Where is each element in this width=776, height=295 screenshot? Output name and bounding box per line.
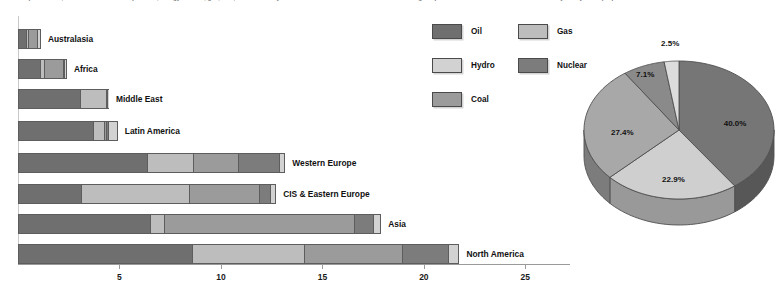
bar-segment-hydro	[65, 60, 66, 78]
legend-swatch	[518, 58, 548, 73]
cropped-text-right: although important in some countries it …	[400, 0, 683, 1]
bar-category-label: Australasia	[48, 34, 93, 44]
x-axis-tick-label: 10	[216, 272, 225, 282]
bar-segment-gas	[82, 185, 190, 203]
x-axis-tick	[221, 264, 222, 269]
bar-segment-hydro	[449, 245, 458, 263]
stacked-bar[interactable]	[18, 89, 109, 109]
chart-page: consumption was 1,437 million tonnes oil…	[0, 0, 776, 295]
bar-segment-gas	[81, 90, 107, 108]
x-axis-tick	[119, 264, 120, 269]
bar-segment-oil	[19, 154, 148, 172]
x-axis-tick	[525, 264, 526, 269]
bar-segment-nuclear	[403, 245, 449, 263]
pie-chart: 40.0%22.9%27.4%7.1%2.5%	[576, 18, 776, 233]
x-axis-tick-label: 15	[318, 272, 327, 282]
x-axis-tick	[322, 264, 323, 269]
bar-segment-nuclear	[239, 154, 280, 172]
chart-legend: OilGasHydroNuclearCoal	[432, 24, 582, 108]
bar-segment-coal	[190, 185, 259, 203]
x-axis-line	[18, 264, 570, 265]
legend-swatch	[432, 24, 462, 39]
bar-segment-hydro	[271, 185, 275, 203]
legend-item-gas[interactable]: Gas	[518, 24, 572, 39]
pie-label-gas: 22.9%	[662, 174, 685, 183]
bar-segment-coal	[194, 154, 238, 172]
stacked-bar[interactable]	[18, 153, 285, 173]
bar-segment-gas	[151, 215, 165, 233]
bar-segment-oil	[19, 185, 82, 203]
bar-category-label: Western Europe	[292, 158, 356, 168]
bar-segment-gas	[94, 122, 105, 140]
bar-segment-oil	[19, 30, 27, 48]
stacked-bar[interactable]	[18, 184, 276, 204]
x-axis-tick-label: 20	[419, 272, 428, 282]
stacked-bar[interactable]	[18, 121, 118, 141]
bar-segment-nuclear	[260, 185, 271, 203]
bar-segment-hydro	[280, 154, 284, 172]
x-axis-tick-label: 25	[521, 272, 530, 282]
bar-segment-coal	[29, 30, 38, 48]
legend-item-hydro[interactable]: Hydro	[432, 58, 495, 73]
bar-segment-hydro	[109, 122, 117, 140]
x-axis-tick	[424, 264, 425, 269]
stacked-bar[interactable]	[18, 59, 67, 79]
legend-swatch	[432, 92, 462, 107]
stacked-bar[interactable]	[18, 244, 459, 264]
stacked-bar[interactable]	[18, 29, 41, 49]
stacked-bar[interactable]	[18, 214, 381, 234]
bar-category-label: CIS & Eastern Europe	[283, 189, 370, 199]
bar-segment-gas	[193, 245, 305, 263]
pie-label-coal: 27.4%	[611, 127, 634, 136]
bar-category-label: North America	[466, 249, 523, 259]
bar-category-label: Middle East	[116, 94, 163, 104]
legend-label: Hydro	[471, 61, 495, 70]
bar-segment-hydro	[38, 30, 39, 48]
bar-category-label: Asia	[388, 219, 406, 229]
legend-item-coal[interactable]: Coal	[432, 92, 489, 107]
bar-segment-oil	[19, 122, 94, 140]
legend-item-oil[interactable]: Oil	[432, 24, 482, 39]
bar-segment-coal	[45, 60, 63, 78]
bar-segment-oil	[19, 245, 193, 263]
bar-category-label: Latin America	[125, 126, 180, 136]
legend-label: Gas	[557, 27, 572, 36]
legend-swatch	[432, 58, 462, 73]
bar-segment-coal	[305, 245, 403, 263]
pie-label-nuclear: 7.1%	[636, 70, 654, 79]
bar-segment-coal	[165, 215, 355, 233]
bar-segment-oil	[19, 90, 81, 108]
legend-label: Coal	[471, 95, 489, 104]
cropped-text-left: consumption was 1,437 million tonnes oil…	[5, 0, 347, 1]
bar-segment-oil	[19, 60, 41, 78]
bar-segment-gas	[148, 154, 194, 172]
legend-swatch	[518, 24, 548, 39]
cropped-body-text: consumption was 1,437 million tonnes oil…	[0, 0, 776, 11]
pie-label-oil: 40.0%	[724, 118, 747, 127]
bar-segment-oil	[19, 215, 151, 233]
bar-segment-nuclear	[355, 215, 374, 233]
bar-segment-hydro	[374, 215, 380, 233]
bar-category-label: Africa	[74, 64, 98, 74]
x-axis-tick-label: 5	[117, 272, 122, 282]
pie-label-hydro: 2.5%	[661, 38, 679, 47]
legend-label: Oil	[471, 27, 482, 36]
